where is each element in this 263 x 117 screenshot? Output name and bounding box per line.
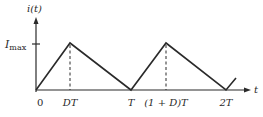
- y-axis-arrow-icon: [34, 17, 39, 24]
- x-tick-label-t: T: [128, 97, 136, 108]
- imax-label: Imax: [4, 38, 27, 52]
- waveform-diagram: i(t) Imax 0 DT T (1 + D)T 2T t: [0, 0, 263, 117]
- waveform-line: [36, 43, 236, 90]
- x-tick-label-1plusdt: (1 + D)T: [144, 97, 189, 108]
- y-axis-label: i(t): [27, 3, 42, 14]
- x-axis-label: t: [254, 84, 259, 95]
- x-tick-label-2t: 2T: [218, 97, 233, 108]
- x-tick-label-dt: DT: [62, 97, 79, 108]
- x-tick-label-0: 0: [37, 97, 43, 108]
- x-axis-arrow-icon: [244, 88, 251, 93]
